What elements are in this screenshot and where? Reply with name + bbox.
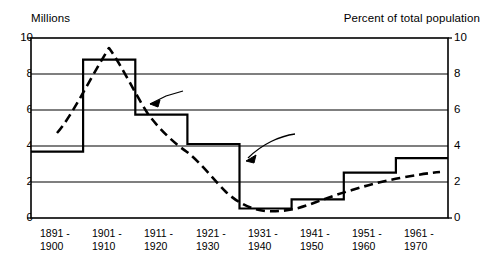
chart-figure: Millions Percent of total population 10 … [0,0,485,271]
plot-area [0,0,485,271]
